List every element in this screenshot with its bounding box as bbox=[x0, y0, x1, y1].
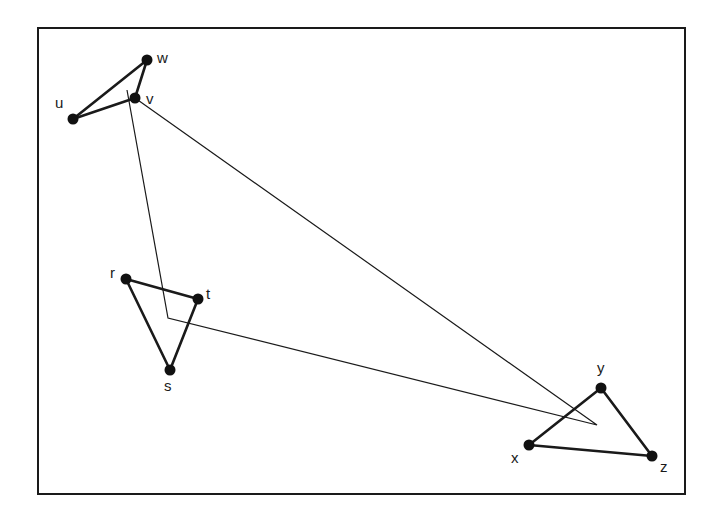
node-t bbox=[193, 294, 204, 305]
node-w bbox=[142, 55, 153, 66]
node-label-z: z bbox=[660, 458, 668, 475]
edge-y-z bbox=[601, 388, 652, 456]
edge-u-w bbox=[73, 60, 147, 119]
node-z bbox=[647, 451, 658, 462]
edge-group bbox=[73, 60, 652, 456]
node-label-y: y bbox=[597, 359, 605, 376]
edge-u-v bbox=[73, 98, 135, 119]
node-label-t: t bbox=[206, 285, 211, 302]
node-r bbox=[121, 274, 132, 285]
node-label-s: s bbox=[164, 377, 172, 394]
node-x bbox=[524, 440, 535, 451]
edge-x-y bbox=[529, 388, 601, 445]
node-label-v: v bbox=[146, 90, 154, 107]
edge-s-t bbox=[170, 299, 198, 370]
node-v bbox=[130, 93, 141, 104]
node-label-r: r bbox=[110, 264, 115, 281]
node-u bbox=[68, 114, 79, 125]
cluster-path-line bbox=[127, 90, 597, 425]
node-label-x: x bbox=[511, 449, 519, 466]
node-y bbox=[596, 383, 607, 394]
node-label-w: w bbox=[156, 49, 168, 66]
node-label-u: u bbox=[55, 94, 63, 111]
node-group bbox=[68, 55, 658, 462]
node-s bbox=[165, 365, 176, 376]
cluster-connection-path bbox=[127, 90, 597, 425]
graph-diagram: wvurtsyxz bbox=[0, 0, 723, 520]
label-group: wvurtsyxz bbox=[55, 49, 668, 475]
edge-x-z bbox=[529, 445, 652, 456]
